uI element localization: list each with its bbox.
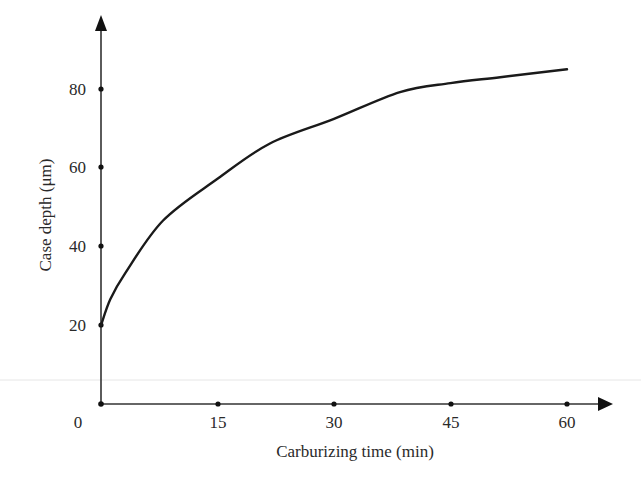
x-tick-label: 45 [443, 413, 460, 432]
chart: 20 40 60 80 0 15 30 45 60 Carburizing ti… [0, 0, 641, 488]
y-tick-label: 40 [69, 237, 86, 256]
y-tick-60 [98, 164, 103, 169]
y-axis-title: Case depth (μm) [36, 159, 55, 272]
x-tick-45 [448, 401, 453, 406]
y-tick-40 [98, 243, 103, 248]
x-tick-60 [564, 401, 569, 406]
x-tick-label: 15 [210, 413, 227, 432]
origin-label: 0 [74, 413, 83, 432]
x-tick-label: 30 [326, 413, 343, 432]
y-tick-80 [98, 86, 103, 91]
case-depth-curve [101, 69, 567, 325]
x-axis-title: Carburizing time (min) [276, 442, 434, 461]
y-tick-label: 80 [69, 80, 86, 99]
x-tick-label: 60 [559, 413, 576, 432]
origin-dot [98, 401, 104, 407]
x-tick-15 [215, 401, 220, 406]
x-tick-30 [331, 401, 336, 406]
x-axis-arrow-icon [598, 397, 613, 411]
y-tick-label: 20 [69, 316, 86, 335]
y-tick-label: 60 [69, 158, 86, 177]
y-axis-arrow-icon [95, 15, 107, 31]
